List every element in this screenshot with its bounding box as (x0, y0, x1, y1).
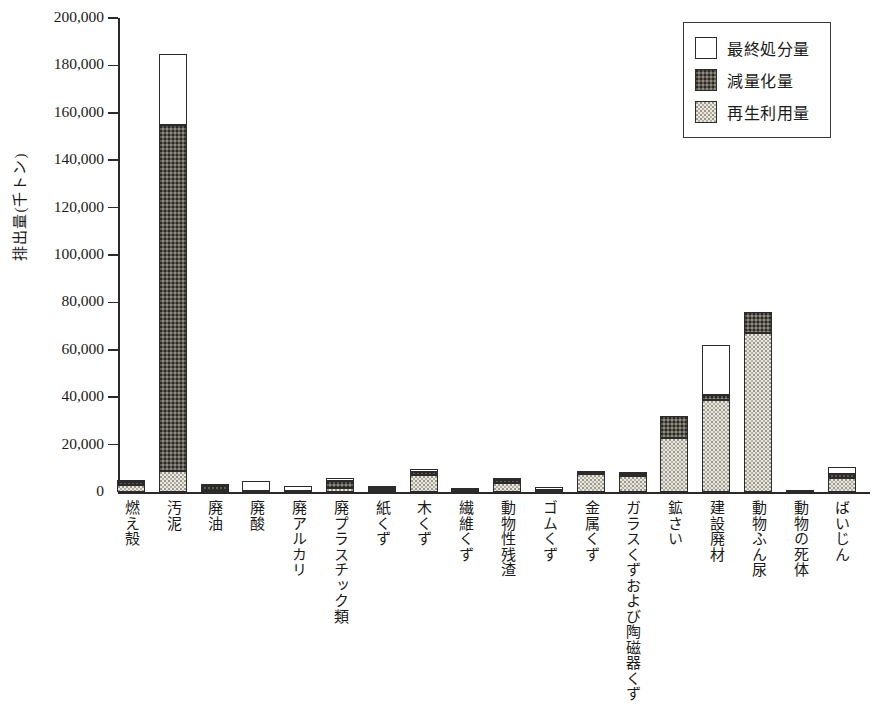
bar-segment-reduce (159, 125, 187, 471)
bar-segment-final (159, 54, 187, 125)
x-axis-category-label: 鉱さい (666, 500, 681, 547)
bar-segment-final (284, 486, 312, 491)
legend-item: 最終処分量 (695, 32, 830, 64)
y-axis-tick-label: 160,000 (8, 103, 104, 121)
y-axis-tick (108, 17, 118, 19)
x-axis-category-label: ガラスくずおよび陶磁器くず (625, 500, 640, 702)
bar-segment-recycle (702, 400, 730, 492)
bar-segment-final (368, 486, 396, 488)
bar-group (326, 478, 354, 492)
y-axis-line (118, 18, 120, 492)
bar-segment-reduce (201, 486, 229, 490)
bar-segment-final (326, 478, 354, 481)
bar-segment-recycle (619, 476, 647, 492)
bar-group (410, 470, 438, 493)
x-axis-category-label: 廃プラスチック類 (332, 500, 347, 624)
y-axis-tick-label: 40,000 (8, 387, 104, 405)
x-axis-category-label: 金属くず (583, 500, 598, 562)
y-axis-tick-label: 200,000 (8, 8, 104, 26)
legend-item: 減量化量 (695, 64, 830, 96)
bar-group (368, 487, 396, 492)
bar-segment-reduce (660, 416, 688, 437)
y-axis-tick (108, 254, 118, 256)
bar-group (117, 480, 145, 492)
bar-group (159, 54, 187, 492)
y-axis-tick-label: 180,000 (8, 55, 104, 73)
bar-segment-reduce (702, 395, 730, 400)
x-axis-category-label: 建設廃材 (708, 500, 723, 562)
y-axis-tick (108, 65, 118, 67)
bar-group (201, 485, 229, 492)
bar-segment-recycle (159, 471, 187, 492)
bar-segment-recycle (744, 333, 772, 492)
x-axis-category-label: ゴムくず (541, 500, 556, 562)
bar-group (535, 488, 563, 492)
bar-segment-final (410, 469, 438, 471)
y-axis-tick (108, 396, 118, 398)
x-axis-category-label: 繊維くず (457, 500, 472, 562)
legend-swatch-recycle (695, 101, 717, 123)
bar-group (242, 481, 270, 492)
bar-segment-reduce (786, 490, 814, 492)
y-axis-tick-label: 100,000 (8, 245, 104, 263)
bar-segment-recycle (410, 475, 438, 492)
bar-segment-recycle (493, 483, 521, 492)
bar-group (786, 490, 814, 492)
y-axis-tick (108, 112, 118, 114)
y-axis-tick-label: 0 (8, 482, 104, 500)
bar-segment-recycle (368, 490, 396, 492)
bar-group (744, 312, 772, 492)
legend-swatch-final (695, 37, 717, 59)
bar-segment-reduce (828, 474, 856, 478)
x-axis-category-label: 燃え殻 (123, 500, 138, 547)
x-axis-category-label: 廃油 (207, 500, 222, 531)
bar-segment-recycle (201, 490, 229, 492)
legend: 最終処分量減量化量再生利用量 (683, 22, 831, 138)
bar-segment-final (117, 480, 145, 482)
legend-label: 減量化量 (727, 68, 793, 92)
bar-segment-final (242, 481, 270, 490)
y-axis-tick-label: 80,000 (8, 292, 104, 310)
x-axis-line (118, 492, 870, 494)
bar-segment-final (493, 478, 521, 480)
bar-segment-final (577, 471, 605, 473)
bar-group (451, 489, 479, 492)
x-axis-category-label: 廃酸 (248, 500, 263, 531)
y-axis-tick (108, 159, 118, 161)
bar-segment-recycle (828, 478, 856, 492)
y-axis-tick-label: 120,000 (8, 198, 104, 216)
x-axis-category-label: 動物性残渣 (499, 500, 514, 578)
x-axis-category-label: 紙くず (374, 500, 389, 547)
legend-label: 再生利用量 (727, 100, 810, 124)
legend-label: 最終処分量 (727, 36, 810, 60)
bar-group (619, 472, 647, 492)
x-axis-category-label: 汚泥 (165, 500, 180, 531)
bar-group (577, 472, 605, 492)
legend-item: 再生利用量 (695, 96, 830, 128)
x-axis-category-label: 動物の死体 (792, 500, 807, 578)
bar-group (828, 467, 856, 492)
y-axis-tick-label: 140,000 (8, 150, 104, 168)
y-axis-tick (108, 444, 118, 446)
bar-segment-recycle (117, 485, 145, 492)
bar-segment-reduce (326, 481, 354, 488)
y-axis-tick (108, 349, 118, 351)
bar-group (284, 486, 312, 492)
y-axis-tick-label: 60,000 (8, 340, 104, 358)
bar-segment-recycle (326, 488, 354, 493)
bar-segment-reduce (493, 480, 521, 484)
x-axis-category-label: ばいじん (834, 500, 849, 562)
bar-segment-recycle (577, 474, 605, 492)
y-axis-tick (108, 302, 118, 304)
bar-chart: 排出量(千トン) 200,000180,000160,000140,000120… (0, 0, 886, 728)
bar-group (702, 345, 730, 492)
x-axis-category-label: 廃アルカリ (290, 500, 305, 578)
bar-group (493, 479, 521, 492)
y-axis-tick-label: 20,000 (8, 435, 104, 453)
bar-segment-reduce (117, 482, 145, 485)
bar-segment-final (451, 488, 479, 490)
bar-segment-final (535, 487, 563, 489)
bar-segment-final (828, 467, 856, 474)
x-axis-category-label: 木くず (416, 500, 431, 547)
bar-segment-final (619, 472, 647, 474)
